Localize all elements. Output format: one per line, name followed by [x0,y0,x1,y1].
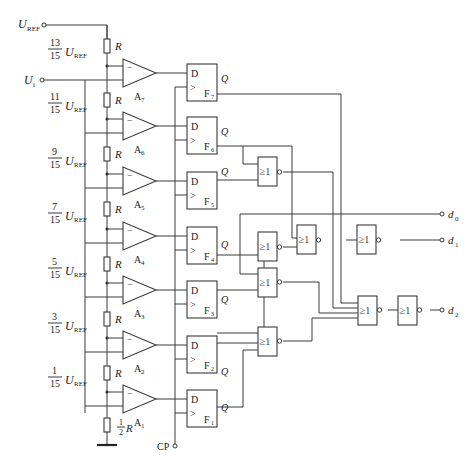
resistor-icon [104,366,110,380]
output-terminal-icon [440,308,444,312]
inversion-bubble-icon [376,238,380,242]
resistor-icon [104,257,110,271]
svg-text:D: D [191,176,198,187]
comparator-a3: − A 3 [123,276,187,321]
svg-text:15: 15 [50,50,60,61]
svg-text:F: F [204,196,210,207]
clock-edge-icon: > [190,245,196,256]
svg-text:Q: Q [221,73,229,84]
uref-terminal-icon [42,23,46,27]
svg-text:REF: REF [74,326,87,334]
svg-text:≥1: ≥1 [358,233,370,245]
svg-text:−: − [127,225,132,235]
inversion-bubble-icon [316,238,320,242]
flipflop-f7: D > F 7 Q [187,64,229,101]
adc-circuit-diagram: U REF U i R R R R R R [0,0,468,472]
svg-text:D: D [191,121,198,132]
clock-edge-icon: > [190,299,196,310]
svg-text:d: d [448,208,454,220]
comparator-a7: − A 7 [123,59,187,104]
svg-text:5: 5 [211,202,214,208]
output-terminal-icon [440,212,444,216]
svg-text:F: F [204,251,210,262]
svg-text:−: − [127,279,132,289]
svg-text:REF: REF [74,106,87,114]
resistor-label: R [114,94,122,106]
clock-edge-icon: > [190,135,196,146]
flipflop-f2: D > F 2 Q [187,336,229,377]
svg-text:13: 13 [50,37,60,48]
resistor-icon [104,93,110,107]
svg-text:REF: REF [74,52,87,60]
clock-bus: CP [157,87,187,452]
svg-text:D: D [191,394,198,405]
nor-gate-d2: ≥1 [358,296,382,325]
svg-text:F: F [204,141,210,152]
half-den: 2 [119,428,123,437]
tap-label-1: 1 15 U REF [48,365,87,389]
svg-text:6: 6 [141,149,145,157]
nor-gate-d2-inverter: ≥1 [398,296,422,325]
clock-edge-icon: > [190,408,196,419]
svg-text:1: 1 [141,422,145,430]
svg-text:15: 15 [50,378,60,389]
tap-label-9: 9 15 U REF [48,146,87,170]
tap-labels: 13 15 U REF 11 15 U REF 9 15 U REF 7 15 … [48,37,87,389]
cp-terminal-icon [173,444,177,448]
nor-gate-2: ≥1 [258,232,282,261]
svg-text:−: − [127,62,132,72]
clock-edge-icon: > [190,190,196,201]
svg-text:9: 9 [52,146,57,157]
svg-text:−: − [127,334,132,344]
svg-text:3: 3 [52,311,57,322]
resistor-label: R [114,203,122,215]
comparator-a5: − A 5 [123,167,187,212]
output-terminal-icon [440,238,444,242]
comparator-a6: − A 6 [123,112,187,157]
outputs: d 0 d 1 d 2 [440,208,459,319]
svg-text:≥1: ≥1 [259,240,271,252]
svg-text:6: 6 [211,147,214,153]
ui-terminal-icon [40,78,44,82]
svg-text:15: 15 [50,159,60,170]
ui-sub: i [33,81,35,89]
svg-text:≥1: ≥1 [259,276,271,288]
svg-text:−: − [127,388,132,398]
tap-label-3: 3 15 U REF [48,311,87,335]
clock-edge-icon: > [190,82,196,93]
nor-gate-1: ≥1 [258,157,282,186]
resistor-label: R [114,313,122,325]
output-d1: d 1 [440,234,459,249]
comparator-a2: − A 2 [123,331,187,376]
resistor-icon [104,39,110,53]
svg-text:4: 4 [141,259,145,267]
nor-gate-4: ≥1 [297,225,321,254]
svg-text:5: 5 [141,204,145,212]
svg-text:≥1: ≥1 [298,233,310,245]
nor-gates: ≥1 ≥1 ≥1 ≥1 ≥1 ≥1 ≥1 [258,157,422,356]
output-d0: d 0 [440,208,459,223]
flipflops: D > F 7 Q D > F 6 Q D > F 5 Q D > [187,64,229,427]
inversion-bubble-icon [377,308,381,312]
svg-text:0: 0 [455,215,459,223]
svg-text:≥1: ≥1 [259,335,271,347]
nor-gate-d1-inverter: ≥1 [357,225,381,254]
svg-text:15: 15 [50,104,60,115]
uref-sub: REF [27,25,40,33]
tap-label-11: 11 15 U REF [48,91,87,115]
comparators: − A 7 − A 6 − A 5 − A 4 [123,59,187,430]
svg-text:15: 15 [50,214,60,225]
resistor-label: R [114,258,122,270]
nor-gate-5: ≥1 [258,327,282,356]
svg-text:D: D [191,68,198,79]
svg-text:F: F [204,88,210,99]
tap-label-13: 13 15 U REF [48,37,87,61]
half-resistor-icon [104,418,110,432]
half-resistor-label: R [125,422,133,434]
tap-label-7: 7 15 U REF [48,201,87,225]
svg-text:3: 3 [141,313,145,321]
svg-text:Q: Q [221,166,229,177]
resistor-icon [104,312,110,326]
ui-input: U i [24,73,123,413]
svg-text:7: 7 [211,94,214,100]
